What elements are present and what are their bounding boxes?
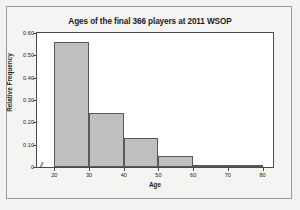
x-axis-tick-label: 60: [190, 172, 196, 178]
x-axis-tick-mark: [124, 168, 125, 171]
x-axis-tick-mark: [89, 168, 90, 171]
x-axis-tick-label: 50: [155, 172, 161, 178]
figure-canvas: Ages of the final 366 players at 2011 WS…: [0, 0, 300, 210]
histogram-bar: [54, 42, 89, 167]
x-axis-tick-mark: [228, 168, 229, 171]
histogram-bar: [124, 138, 159, 167]
bars-container: [37, 33, 273, 167]
x-axis-tick-mark: [193, 168, 194, 171]
x-axis-tick-label: 20: [51, 172, 57, 178]
plot-area: [36, 32, 274, 168]
x-axis-tick-label: 30: [86, 172, 92, 178]
x-axis-title: Age: [36, 181, 274, 188]
histogram-bar: [158, 156, 193, 167]
x-axis-tick-mark: [54, 168, 55, 171]
histogram-bar: [193, 165, 228, 167]
x-axis-tick-label: 70: [225, 172, 231, 178]
x-axis-tick-label: 80: [259, 172, 265, 178]
histogram-bar: [228, 165, 263, 167]
chart-title: Ages of the final 366 players at 2011 WS…: [28, 17, 272, 26]
histogram-bar: [89, 113, 124, 167]
y-axis-tick-labels: 00.100.200.300.400.500.60: [0, 32, 34, 168]
x-axis-tick-label: 40: [121, 172, 127, 178]
x-axis-tick-mark: [263, 168, 264, 171]
x-axis-tick-mark: [158, 168, 159, 171]
axis-break-icon: //: [40, 161, 41, 170]
